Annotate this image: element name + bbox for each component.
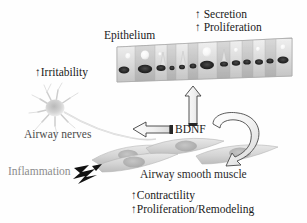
- label-airway-smooth-muscle: Airway smooth muscle: [140, 168, 247, 180]
- label-bdnf: BDNF: [175, 123, 206, 135]
- figure-canvas: ↑ Secretion ↑ Proliferation Epithelium ↑…: [0, 0, 307, 223]
- lightning-bolt-icon: [73, 164, 102, 184]
- label-airway-nerves: Airway nerves: [24, 128, 91, 140]
- label-secretion: ↑ Secretion: [195, 8, 247, 20]
- label-inflammation: Inflammation: [8, 165, 71, 177]
- bdnf-source-marker: [170, 125, 174, 134]
- neuron-soma: [46, 100, 65, 117]
- label-epithelium: Epithelium: [104, 29, 155, 41]
- label-proliferation-remodeling: ↑Proliferation/Remodeling: [131, 203, 254, 215]
- smooth-muscle-nucleus: [123, 156, 145, 167]
- label-irritability: ↑Irritability: [35, 66, 88, 78]
- block-arrow-up-icon: [185, 86, 201, 126]
- label-contractility: ↑Contractility: [131, 189, 195, 201]
- epithelium-sheet: [117, 34, 292, 84]
- block-arrow-left-icon: [133, 122, 173, 137]
- smooth-muscle-nucleus: [175, 141, 197, 152]
- label-proliferation: ↑ Proliferation: [195, 21, 262, 33]
